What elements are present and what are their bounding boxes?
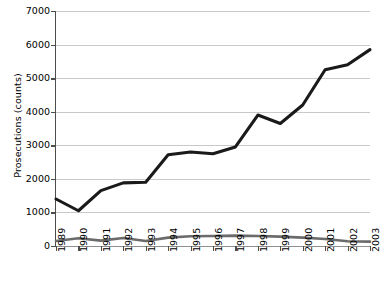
series-layer xyxy=(56,11,370,246)
x-tick-label-2001: 2001 xyxy=(325,228,336,252)
y-tick-label-6000: 6000 xyxy=(26,40,50,50)
x-tick-label-1993: 1993 xyxy=(146,228,157,252)
y-tick-mark-6000 xyxy=(51,45,55,46)
y-tick-label-2000: 2000 xyxy=(26,174,50,184)
x-tick-label-2000: 2000 xyxy=(303,228,314,252)
y-tick-label-0: 0 xyxy=(44,241,50,251)
y-tick-mark-7000 xyxy=(51,11,55,12)
y-tick-label-3000: 3000 xyxy=(26,140,50,150)
x-tick-label-1999: 1999 xyxy=(280,228,291,252)
y-tick-label-4000: 4000 xyxy=(26,107,50,117)
x-tick-label-1996: 1996 xyxy=(213,228,224,252)
series-line-primary xyxy=(56,50,370,211)
y-tick-mark-1000 xyxy=(51,212,55,213)
y-tick-mark-2000 xyxy=(51,179,55,180)
y-tick-mark-4000 xyxy=(51,112,55,113)
x-tick-label-1990: 1990 xyxy=(78,228,89,252)
y-tick-label-7000: 7000 xyxy=(26,6,50,16)
y-tick-label-1000: 1000 xyxy=(26,207,50,217)
x-tick-label-1992: 1992 xyxy=(123,228,134,252)
x-tick-label-1989: 1989 xyxy=(56,228,67,252)
prosecutions-line-chart: Prosecutions (counts) 010002000300040005… xyxy=(0,0,385,283)
x-tick-label-2002: 2002 xyxy=(348,228,359,252)
y-tick-mark-3000 xyxy=(51,145,55,146)
plot-area xyxy=(56,11,370,246)
y-tick-label-5000: 5000 xyxy=(26,73,50,83)
x-tick-label-2003: 2003 xyxy=(370,228,381,252)
x-tick-label-1998: 1998 xyxy=(258,228,269,252)
y-tick-mark-5000 xyxy=(51,78,55,79)
x-tick-label-1994: 1994 xyxy=(168,228,179,252)
x-tick-label-1995: 1995 xyxy=(191,228,202,252)
y-tick-mark-0 xyxy=(51,246,55,247)
x-tick-label-1997: 1997 xyxy=(235,228,246,252)
x-tick-label-1991: 1991 xyxy=(101,228,112,252)
